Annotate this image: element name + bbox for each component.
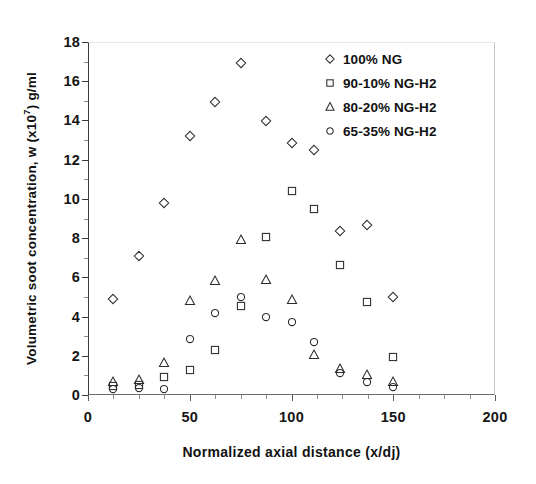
x-tick-minor [241,395,242,399]
x-tick-minor [342,395,343,399]
legend-item-label: 80-20% NG-H2 [343,100,437,115]
y-tick-label: 4 [72,309,80,325]
y-tick-label: 12 [63,152,80,168]
data-point-diamond [211,97,220,106]
data-point-diamond [109,294,118,303]
x-axis-title: Normalized axial distance (x/dj) [88,444,495,460]
x-tick-minor [470,395,471,399]
x-tick-major [292,395,293,401]
data-point-square [236,301,245,310]
data-point-diamond [336,227,345,236]
data-point-diamond [160,198,169,207]
y-tick-minor [84,62,88,63]
y-tick-major [82,317,88,318]
data-point-circle [389,383,398,392]
x-tick-minor [266,395,267,399]
data-point-square [309,205,318,214]
y-tick-minor [84,101,88,102]
legend-item-circle[interactable]: 65-35% NG-H2 [322,119,472,143]
x-tick-minor [444,395,445,399]
y-tick-label: 14 [63,112,80,128]
data-point-circle [160,385,169,394]
diamond-marker-icon [322,51,338,67]
chart-legend: 100% NG90-10% NG-H280-20% NG-H265-35% NG… [322,47,472,143]
y-tick-minor [84,258,88,259]
x-tick-minor [139,395,140,399]
y-tick-major [82,277,88,278]
data-point-square [134,381,143,390]
x-tick-label: 200 [483,409,508,425]
legend-item-label: 100% NG [343,52,402,67]
y-tick-label: 18 [63,34,80,50]
y-tick-major [82,238,88,239]
data-point-circle [262,312,271,321]
data-point-triangle [362,370,371,379]
x-tick-minor [317,395,318,399]
y-tick-major [82,160,88,161]
x-tick-minor [368,395,369,399]
data-point-triangle [236,236,245,245]
data-point-diamond [262,117,271,126]
data-point-square [389,352,398,361]
y-tick-minor [84,179,88,180]
data-point-triangle [336,365,345,374]
triangle-marker-icon [322,99,338,115]
x-tick-minor [419,395,420,399]
data-point-diamond [287,138,296,147]
y-tick-major [82,81,88,82]
data-point-circle [236,292,245,301]
data-point-circle [185,335,194,344]
data-point-circle [309,338,318,347]
x-tick-minor [164,395,165,399]
y-tick-minor [84,219,88,220]
data-point-triangle [109,377,118,386]
data-point-triangle [211,277,220,286]
circle-marker-icon [322,123,338,139]
y-tick-major [82,120,88,121]
y-axis-title-prefix: Volumetric soot concentration, w (x10 [24,115,39,365]
x-tick-major [393,395,394,401]
x-tick-label: 150 [381,409,406,425]
legend-item-label: 65-35% NG-H2 [343,124,437,139]
data-point-diamond [389,293,398,302]
data-point-square [262,233,271,242]
data-point-square [287,187,296,196]
legend-item-label: 90-10% NG-H2 [343,76,437,91]
y-tick-minor [84,336,88,337]
data-point-triangle [134,376,143,385]
y-axis-title: Volumetric soot concentration, w (x107) … [21,42,43,395]
legend-item-triangle[interactable]: 80-20% NG-H2 [322,95,472,119]
data-point-circle [211,309,220,318]
x-tick-major [190,395,191,401]
data-point-square [160,373,169,382]
data-point-triangle [160,359,169,368]
x-tick-label: 100 [279,409,304,425]
legend-item-square[interactable]: 90-10% NG-H2 [322,71,472,95]
y-tick-label: 16 [63,73,80,89]
x-tick-minor [113,395,114,399]
data-point-triangle [309,350,318,359]
data-point-circle [109,384,118,393]
data-point-diamond [309,145,318,154]
y-tick-label: 0 [72,387,80,403]
y-tick-label: 8 [72,230,80,246]
square-marker-icon [322,75,338,91]
legend-item-diamond[interactable]: 100% NG [322,47,472,71]
data-point-circle [287,318,296,327]
y-tick-label: 2 [72,348,80,364]
y-tick-minor [84,375,88,376]
y-tick-minor [84,140,88,141]
data-point-triangle [262,275,271,284]
data-point-triangle [287,296,296,305]
data-point-square [336,260,345,269]
data-point-circle [336,369,345,378]
x-tick-minor [215,395,216,399]
x-tick-major [495,395,496,401]
data-point-square [362,298,371,307]
y-tick-major [82,356,88,357]
y-tick-label: 6 [72,269,80,285]
y-tick-minor [84,297,88,298]
data-point-square [185,365,194,374]
data-point-triangle [185,296,194,305]
x-tick-label: 0 [84,409,92,425]
